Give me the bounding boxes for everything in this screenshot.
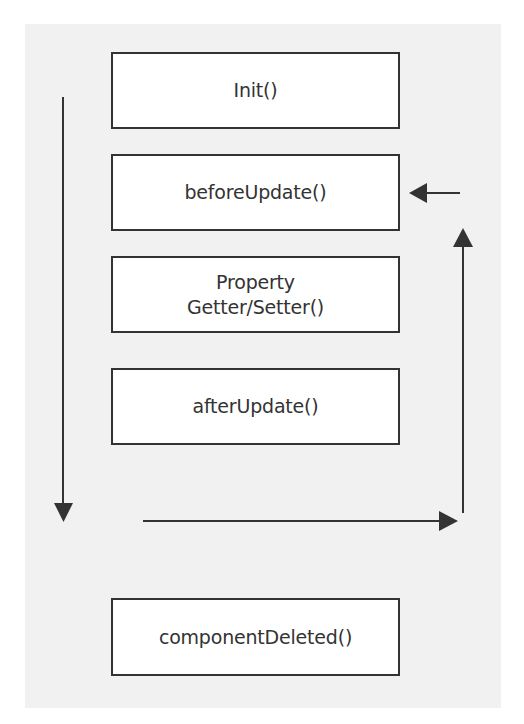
- node-component-deleted-label: componentDeleted(): [159, 625, 352, 650]
- node-init: Init(): [111, 52, 400, 129]
- node-before-update: beforeUpdate(): [111, 154, 400, 231]
- node-property-label-line1: Property: [216, 270, 295, 295]
- node-component-deleted: componentDeleted(): [111, 598, 400, 676]
- node-after-update-label: afterUpdate(): [193, 394, 319, 419]
- node-before-update-label: beforeUpdate(): [185, 180, 327, 205]
- node-after-update: afterUpdate(): [111, 368, 400, 445]
- node-property-label-line2: Getter/Setter(): [187, 295, 324, 320]
- node-init-label: Init(): [234, 78, 278, 103]
- node-property-getter-setter: Property Getter/Setter(): [111, 256, 400, 333]
